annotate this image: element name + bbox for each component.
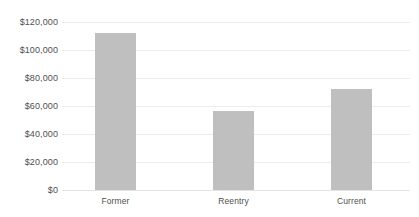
xtick-label-reentry: Reentry xyxy=(203,196,264,206)
bar-former xyxy=(95,33,136,190)
bar-reentry xyxy=(213,111,254,190)
bar-chart: $120,000 $100,000 $80,000 $60,000 $40,00… xyxy=(0,0,419,217)
ytick-label-120000: $120,000 xyxy=(20,17,58,27)
ytick-label-80000: $80,000 xyxy=(25,73,58,83)
ytick-label-100000: $100,000 xyxy=(20,45,58,55)
ytick-label-20000: $20,000 xyxy=(25,157,58,167)
bar-current xyxy=(331,89,372,190)
ytick-label-60000: $60,000 xyxy=(25,101,58,111)
ytick-label-40000: $40,000 xyxy=(25,129,58,139)
plot-area: $120,000 $100,000 $80,000 $60,000 $40,00… xyxy=(0,0,419,217)
ytick-label-0: $0 xyxy=(48,185,58,195)
xtick-label-former: Former xyxy=(85,196,146,206)
xtick-label-current: Current xyxy=(321,196,382,206)
gridline-0 xyxy=(62,190,410,191)
gridline-120000 xyxy=(62,22,410,23)
